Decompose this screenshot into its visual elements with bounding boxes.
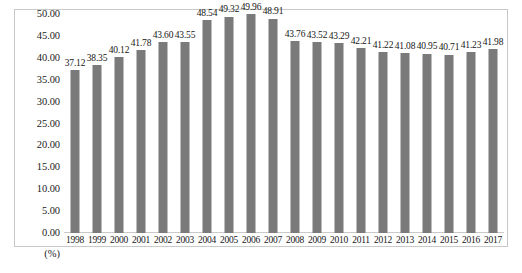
bar-slot: 43.55 <box>174 14 196 233</box>
bar-slot: 41.08 <box>394 14 416 233</box>
bar[interactable] <box>159 42 168 233</box>
bar[interactable] <box>423 54 432 233</box>
bar-value-label: 49.32 <box>219 5 239 15</box>
x-axis-tick-label: 2011 <box>352 236 369 246</box>
bar-slot: 40.95 <box>416 14 438 233</box>
bar[interactable] <box>401 53 410 233</box>
bar-slot: 43.60 <box>152 14 174 233</box>
bar-slot: 43.52 <box>306 14 328 233</box>
bar[interactable] <box>357 48 366 233</box>
bar[interactable] <box>445 55 454 233</box>
y-axis-tick-label: 45.00 <box>16 31 60 42</box>
y-axis-tick-label: 5.00 <box>16 206 60 217</box>
y-axis-tick-label: 20.00 <box>16 140 60 151</box>
bar[interactable] <box>489 49 498 233</box>
y-axis: 0.005.0010.0015.0020.0025.0030.0035.0040… <box>16 10 60 232</box>
y-axis-tick-label: 35.00 <box>16 75 60 86</box>
bar[interactable] <box>467 52 476 233</box>
bar-value-label: 37.12 <box>65 59 85 69</box>
bar[interactable] <box>181 42 190 233</box>
bar-value-label: 40.12 <box>109 46 129 56</box>
x-axis-tick-label: 2016 <box>462 236 480 246</box>
x-axis-tick-label: 1999 <box>88 236 106 246</box>
bar-slot: 41.98 <box>482 14 504 233</box>
bar[interactable] <box>379 52 388 233</box>
x-axis-tick-label: 2001 <box>132 236 150 246</box>
bar-value-label: 41.98 <box>483 38 503 48</box>
bar-slot: 43.29 <box>328 14 350 233</box>
bar[interactable] <box>71 70 80 233</box>
bar-slot: 41.23 <box>460 14 482 233</box>
bar-value-label: 41.22 <box>373 41 393 51</box>
x-axis-tick-label: 2006 <box>242 236 260 246</box>
y-axis-tick-label: 30.00 <box>16 97 60 108</box>
x-axis-tick-label: 2010 <box>330 236 348 246</box>
bar-slot: 41.78 <box>130 14 152 233</box>
bar[interactable] <box>291 41 300 233</box>
bar-value-label: 43.55 <box>175 31 195 41</box>
bar-value-label: 43.29 <box>329 32 349 42</box>
y-axis-tick-label: 25.00 <box>16 119 60 130</box>
x-axis-tick-label: 2005 <box>220 236 238 246</box>
bar-value-label: 48.91 <box>263 7 283 17</box>
bar-value-label: 40.71 <box>439 43 459 53</box>
bar-value-label: 38.35 <box>87 54 107 64</box>
x-axis-tick-label: 2017 <box>484 236 502 246</box>
bar[interactable] <box>247 14 256 233</box>
bar-slot: 40.12 <box>108 14 130 233</box>
bar[interactable] <box>225 17 234 233</box>
plot-area: 37.1238.3540.1241.7843.6043.5548.5449.32… <box>64 14 504 233</box>
bar[interactable] <box>335 43 344 233</box>
bar-slot: 43.76 <box>284 14 306 233</box>
x-axis-tick-label: 1998 <box>66 236 84 246</box>
y-axis-tick-label: 15.00 <box>16 162 60 173</box>
x-axis-tick-label: 2013 <box>396 236 414 246</box>
x-axis-tick-label: 2009 <box>308 236 326 246</box>
bar-value-label: 41.08 <box>395 42 415 52</box>
x-axis-tick-label: 2002 <box>154 236 172 246</box>
bar-value-label: 40.95 <box>417 42 437 52</box>
x-axis-tick-label: 2000 <box>110 236 128 246</box>
y-axis-tick-label: 10.00 <box>16 184 60 195</box>
bar-value-label: 41.23 <box>461 41 481 51</box>
bar-slot: 41.22 <box>372 14 394 233</box>
y-axis-unit-label: (%) <box>16 249 60 260</box>
bar-value-label: 43.76 <box>285 30 305 40</box>
bar-slot: 37.12 <box>64 14 86 233</box>
bar-slot: 48.54 <box>196 14 218 233</box>
bar-slot: 42.21 <box>350 14 372 233</box>
bar-value-label: 49.96 <box>241 3 261 13</box>
x-axis-tick-label: 2012 <box>374 236 392 246</box>
bar[interactable] <box>203 20 212 233</box>
bar-slot: 49.96 <box>240 14 262 233</box>
bar-value-label: 42.21 <box>351 37 371 47</box>
bar[interactable] <box>115 57 124 233</box>
x-axis-tick-label: 2008 <box>286 236 304 246</box>
bar-slot: 38.35 <box>86 14 108 233</box>
y-axis-tick-label: 50.00 <box>16 9 60 20</box>
bar[interactable] <box>137 50 146 233</box>
y-axis-tick-label: 0.00 <box>16 228 60 239</box>
bar[interactable] <box>93 65 102 233</box>
bar[interactable] <box>269 19 278 233</box>
bar-slot: 40.71 <box>438 14 460 233</box>
bar[interactable] <box>313 42 322 233</box>
x-axis-tick-label: 2014 <box>418 236 436 246</box>
x-axis-tick-label: 2007 <box>264 236 282 246</box>
x-axis-tick-label: 2015 <box>440 236 458 246</box>
x-axis: 1998199920002001200220032004200520062007… <box>64 236 504 252</box>
y-axis-tick-label: 40.00 <box>16 53 60 64</box>
bar-chart: 0.005.0010.0015.0020.0025.0030.0035.0040… <box>0 0 522 273</box>
x-axis-tick-label: 2004 <box>198 236 216 246</box>
x-axis-tick-label: 2003 <box>176 236 194 246</box>
bar-value-label: 43.52 <box>307 31 327 41</box>
bar-value-label: 43.60 <box>153 31 173 41</box>
bar-value-label: 48.54 <box>197 9 217 19</box>
bar-value-label: 41.78 <box>131 39 151 49</box>
bar-slot: 48.91 <box>262 14 284 233</box>
bar-slot: 49.32 <box>218 14 240 233</box>
